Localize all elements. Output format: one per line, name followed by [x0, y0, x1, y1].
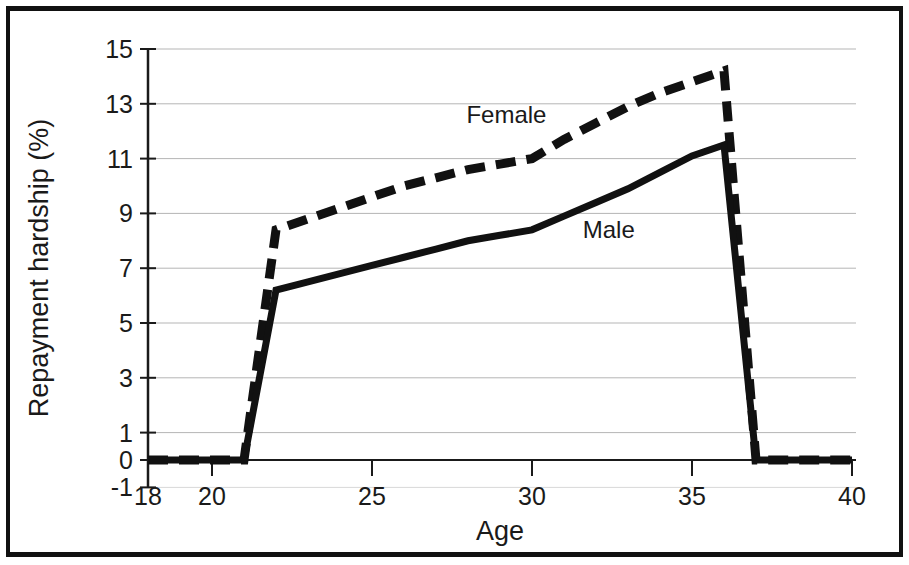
data-series-group — [148, 71, 852, 460]
y-tick-label: 9 — [119, 199, 133, 227]
y-tick-label: 0 — [119, 446, 133, 474]
x-axis-title: Age — [476, 516, 524, 546]
y-axis-title: Repayment hardship (%) — [24, 119, 54, 418]
series-label-male: Male — [583, 216, 635, 243]
y-axis-tick-labels: -1013579111315 — [105, 35, 133, 501]
y-tick-label: 11 — [107, 145, 133, 173]
x-tick-label: 35 — [678, 482, 706, 510]
x-tick-label: 40 — [838, 482, 866, 510]
x-axis-ticks — [148, 460, 852, 476]
y-tick-label: -1 — [111, 473, 133, 501]
y-tick-label: 1 — [119, 419, 133, 447]
series-label-female: Female — [466, 101, 546, 128]
x-tick-label: 20 — [198, 482, 226, 510]
x-tick-label: 18 — [134, 482, 162, 510]
x-tick-label: 25 — [358, 482, 386, 510]
y-tick-label: 15 — [105, 35, 133, 63]
line-chart: -1013579111315 182025303540 FemaleMale A… — [0, 0, 909, 565]
x-axis-tick-labels: 182025303540 — [134, 482, 866, 510]
y-tick-label: 13 — [105, 90, 133, 118]
y-tick-label: 5 — [119, 309, 133, 337]
y-tick-label: 3 — [119, 364, 133, 392]
x-tick-label: 30 — [518, 482, 546, 510]
y-tick-label: 7 — [119, 254, 133, 282]
figure-frame: -1013579111315 182025303540 FemaleMale A… — [0, 0, 909, 565]
